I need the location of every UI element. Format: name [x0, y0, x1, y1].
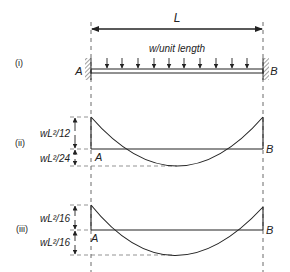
- dimension-bottom-iii: wL²/16: [40, 237, 70, 248]
- fixed-support-right: [263, 58, 269, 80]
- load-label: w/unit length: [149, 43, 206, 54]
- beam: [91, 69, 263, 73]
- support-label-a-iii: A: [90, 232, 98, 244]
- reference-lines: [91, 22, 263, 272]
- part-i: (i) w/unit length A B: [15, 43, 278, 80]
- support-label-b: B: [270, 65, 277, 77]
- part-iii-label: (iii): [16, 224, 28, 234]
- dimension-top-ii: wL²/12: [40, 128, 70, 139]
- beam-diagram: L (i) w/unit length A B (ii): [0, 0, 290, 272]
- part-ii: (ii) wL²/12 wL²/24 A B: [15, 117, 273, 166]
- span-dimension: L: [92, 11, 262, 29]
- dimension-bottom-ii: wL²/24: [40, 153, 70, 164]
- span-label: L: [174, 11, 181, 25]
- support-label-b-ii: B: [266, 143, 273, 155]
- moment-curve-ii: [91, 117, 263, 166]
- fixed-support-left: [85, 58, 91, 80]
- support-label-a: A: [74, 65, 82, 77]
- dimension-top-iii: wL²/16: [40, 213, 70, 224]
- distributed-load-arrows: [107, 58, 247, 68]
- part-ii-label: (ii): [15, 138, 25, 148]
- support-label-a-ii: A: [94, 151, 102, 163]
- support-label-b-iii: B: [266, 224, 273, 236]
- part-iii: (iii) wL²/16 wL²/16 A B: [16, 205, 273, 256]
- part-i-label: (i): [15, 58, 23, 68]
